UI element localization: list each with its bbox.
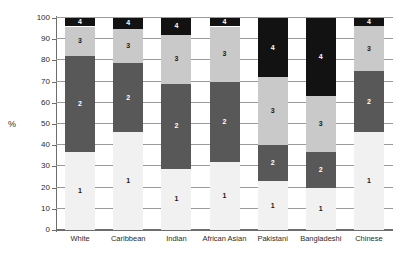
x-axis-tick-label: Bangladeshi (297, 234, 345, 243)
bar-segment-label: 2 (113, 94, 143, 101)
bar-segment[interactable]: 4 (113, 18, 143, 29)
bar-segment-label: 3 (210, 50, 240, 57)
bar-group[interactable]: 1234 (161, 18, 191, 230)
bar-segment-label: 4 (161, 22, 191, 29)
bar-segment[interactable]: 2 (113, 63, 143, 133)
bar-segment-label: 4 (354, 18, 384, 25)
y-axis-tick-label: 20 (28, 184, 50, 192)
bar-group[interactable]: 1234 (65, 18, 95, 230)
stacked-bar-chart: % 0102030405060708090100 123412341234123… (0, 0, 415, 261)
y-axis-tick-label: 100 (28, 14, 50, 22)
bar-segment[interactable]: 3 (354, 26, 384, 71)
x-axis-tick-label: African Asian (200, 234, 248, 243)
bar-segment-label: 4 (258, 44, 288, 51)
bar-segment[interactable]: 4 (210, 18, 240, 26)
y-axis-tick-label: 10 (28, 205, 50, 213)
bar-segment[interactable]: 4 (65, 18, 95, 26)
y-axis-title: % (8, 119, 16, 129)
bar-segment[interactable]: 2 (210, 82, 240, 163)
bar-segment[interactable]: 3 (306, 96, 336, 151)
y-axis-tick-label: 60 (28, 99, 50, 107)
bar-segment[interactable]: 2 (306, 152, 336, 188)
bar-group[interactable]: 1234 (354, 18, 384, 230)
bar-segment-label: 2 (210, 118, 240, 125)
x-axis-tick-label: Indian (152, 234, 200, 243)
bar-segment[interactable]: 2 (258, 145, 288, 181)
bar-segment[interactable]: 1 (306, 188, 336, 230)
bar-group[interactable]: 1234 (113, 18, 143, 230)
plot-area: 1234123412341234123412341234 (56, 18, 393, 230)
bar-segment[interactable]: 2 (354, 71, 384, 132)
bar-segment[interactable]: 3 (113, 29, 143, 63)
y-axis-tick-mark (52, 188, 57, 189)
bar-segment-label: 1 (65, 187, 95, 194)
bar-group[interactable]: 1234 (210, 18, 240, 230)
bar-segment-label: 1 (113, 177, 143, 184)
x-axis-tick-label: White (56, 234, 104, 243)
bar-segment-label: 2 (354, 98, 384, 105)
y-axis-tick-labels: 0102030405060708090100 (20, 18, 50, 230)
bar-segment-label: 2 (65, 100, 95, 107)
x-axis-line (52, 230, 393, 231)
bar-segment-label: 3 (306, 120, 336, 127)
bar-segment-label: 3 (113, 42, 143, 49)
bar-segment-label: 2 (258, 159, 288, 166)
bar-segment-label: 4 (210, 18, 240, 25)
bar-segment-label: 1 (161, 195, 191, 202)
bar-segment[interactable]: 3 (65, 27, 95, 57)
bar-segment[interactable]: 1 (354, 132, 384, 230)
bar-segment[interactable]: 1 (258, 181, 288, 230)
bar-segment-label: 4 (306, 53, 336, 60)
y-axis-tick-mark (52, 39, 57, 40)
bar-segment-label: 1 (354, 177, 384, 184)
y-axis-tick-label: 80 (28, 56, 50, 64)
bar-segment-label: 4 (65, 18, 95, 25)
bar-segment-label: 1 (210, 192, 240, 199)
y-axis-tick-mark (52, 230, 57, 231)
bar-group[interactable]: 1234 (258, 18, 288, 230)
y-axis-tick-mark (52, 82, 57, 83)
bar-segment[interactable]: 4 (354, 18, 384, 26)
y-axis-tick-mark (52, 18, 57, 19)
bar-segment-label: 4 (113, 19, 143, 26)
bar-segment[interactable]: 1 (113, 132, 143, 230)
bar-segment-label: 1 (306, 205, 336, 212)
bar-group[interactable]: 1234 (306, 18, 336, 230)
y-axis-tick-mark (52, 209, 57, 210)
y-axis-tick-label: 70 (28, 78, 50, 86)
bar-segment-label: 3 (258, 107, 288, 114)
y-axis-tick-label: 30 (28, 162, 50, 170)
x-axis-tick-label: Chinese (345, 234, 393, 243)
y-axis-tick-mark (52, 166, 57, 167)
y-axis-tick-mark (52, 60, 57, 61)
bar-segment[interactable]: 3 (161, 35, 191, 84)
x-axis-tick-labels: WhiteCaribbeanIndianAfrican AsianPakista… (56, 234, 393, 248)
bar-segment[interactable]: 4 (306, 18, 336, 96)
bar-segment-label: 2 (306, 166, 336, 173)
bar-segment-label: 3 (354, 45, 384, 52)
bar-segment-label: 3 (65, 37, 95, 44)
bar-segment[interactable]: 3 (210, 27, 240, 82)
y-axis-tick-label: 90 (28, 35, 50, 43)
bar-segment[interactable]: 2 (161, 84, 191, 169)
y-axis-tick-label: 50 (28, 120, 50, 128)
bar-segment-label: 2 (161, 122, 191, 129)
y-axis-tick-mark (52, 103, 57, 104)
bar-segment[interactable]: 1 (161, 169, 191, 230)
x-axis-tick-label: Pakistani (249, 234, 297, 243)
y-axis-tick-mark (52, 124, 57, 125)
bar-segment[interactable]: 1 (210, 162, 240, 230)
bar-segment[interactable]: 4 (161, 18, 191, 35)
bar-segment[interactable]: 4 (258, 18, 288, 77)
y-axis-tick-label: 40 (28, 141, 50, 149)
y-axis-tick-label: 0 (28, 226, 50, 234)
bar-segment[interactable]: 2 (65, 56, 95, 151)
y-axis-tick-mark (52, 145, 57, 146)
bar-segment-label: 1 (258, 202, 288, 209)
x-axis-tick-label: Caribbean (104, 234, 152, 243)
bar-segment[interactable]: 3 (258, 77, 288, 145)
bar-segment-label: 3 (161, 55, 191, 62)
bar-segment[interactable]: 1 (65, 152, 95, 230)
